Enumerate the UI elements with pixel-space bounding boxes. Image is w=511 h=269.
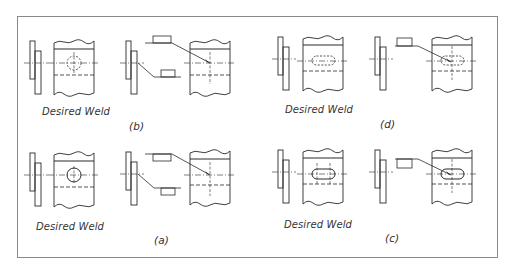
caption-c: (c) (385, 232, 399, 244)
desired-weld-d (272, 37, 296, 90)
panel-d (272, 36, 478, 93)
desired-weld-label-d: Desired Weld (285, 104, 353, 115)
caption-a: (a) (154, 234, 169, 246)
desired-weld-b (24, 41, 48, 94)
weld-symbol-b (120, 41, 181, 94)
weld-symbol-a (120, 152, 181, 205)
desired-weld-label-c: Desired Weld (284, 219, 352, 230)
weld-symbol-d (397, 38, 412, 46)
desired-weld-label-a: Desired Weld (36, 221, 104, 232)
desired-weld-c (272, 150, 296, 203)
panel-a (24, 150, 236, 209)
panel-c (272, 149, 478, 206)
slot-hidden-icon (312, 56, 335, 65)
desired-weld-label-b: Desired Weld (42, 106, 110, 117)
desired-weld-a (24, 153, 48, 206)
caption-d: (d) (380, 118, 395, 130)
panel-b (24, 36, 236, 96)
caption-b: (b) (129, 120, 144, 132)
weld-symbol-c (397, 159, 412, 168)
